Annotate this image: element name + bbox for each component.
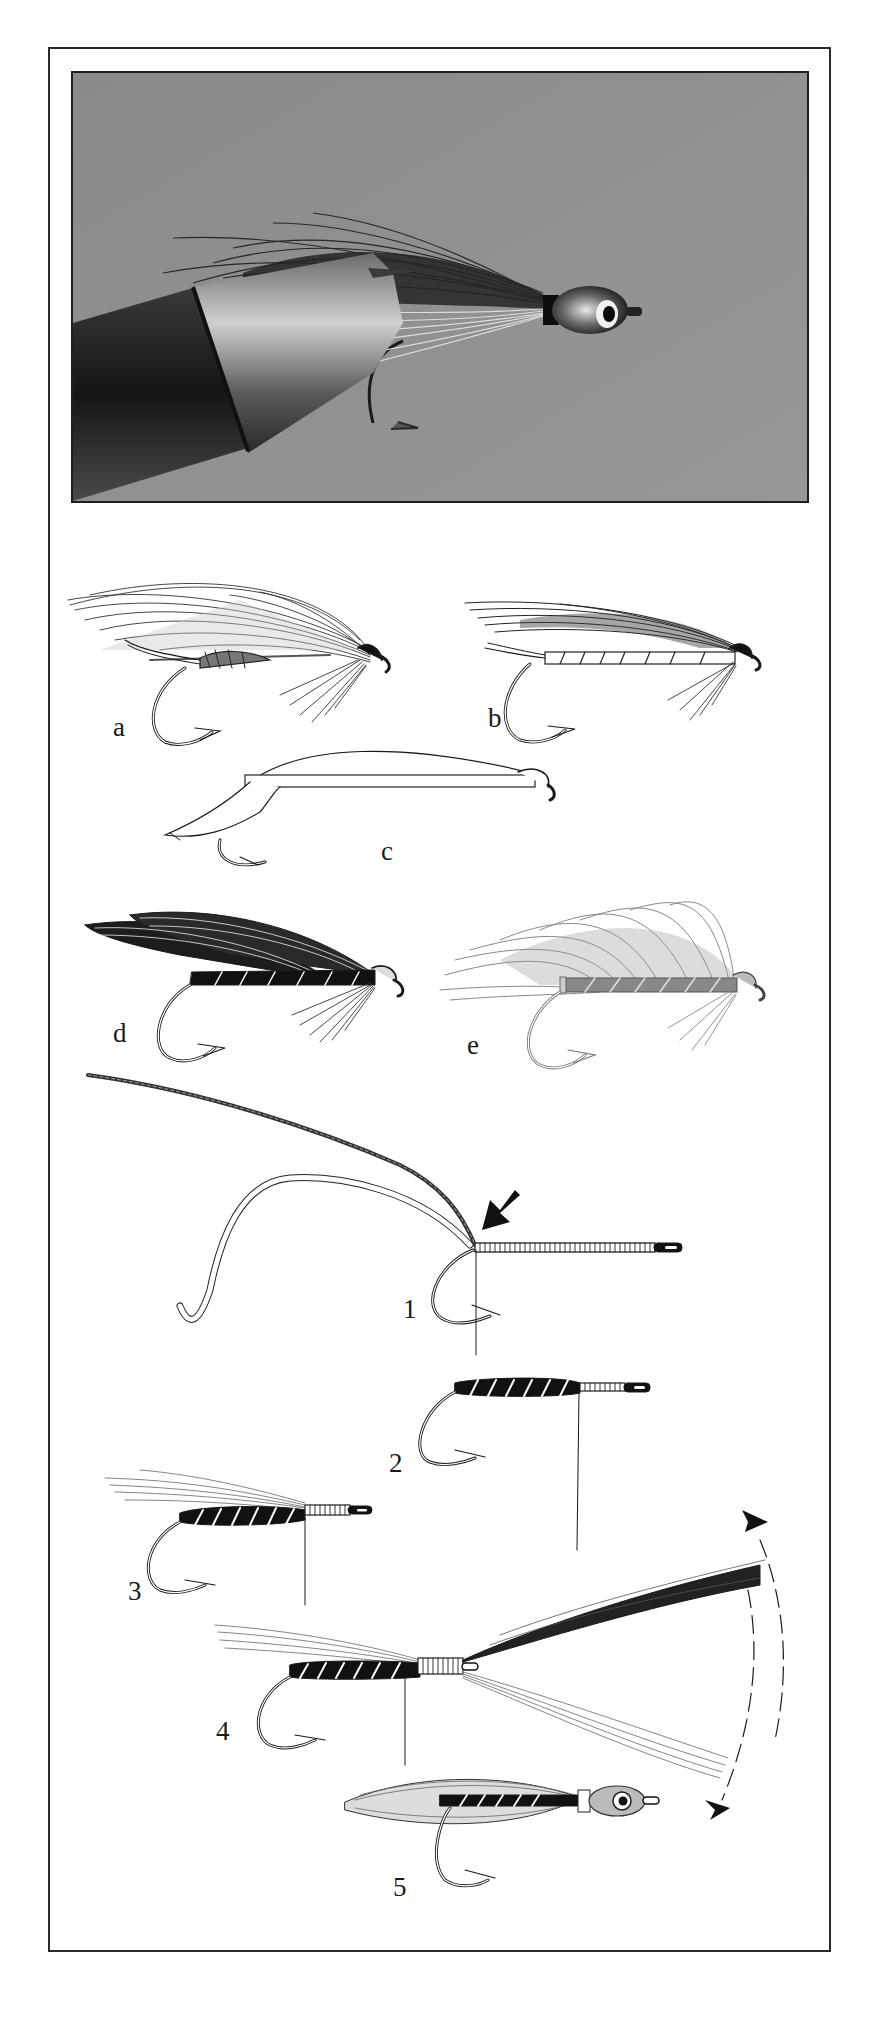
fly-label-d: d — [113, 1020, 127, 1047]
step-label-1: 1 — [403, 1296, 417, 1323]
step-label-5: 5 — [393, 1874, 407, 1901]
step-label-2: 2 — [389, 1450, 403, 1477]
fly-label-b: b — [488, 705, 502, 732]
fly-photo — [71, 71, 809, 503]
step-label-4: 4 — [216, 1718, 230, 1745]
step-label-3: 3 — [128, 1578, 142, 1605]
fly-label-c: c — [381, 838, 393, 865]
fly-label-e: e — [467, 1032, 479, 1059]
fly-label-a: a — [113, 714, 125, 741]
